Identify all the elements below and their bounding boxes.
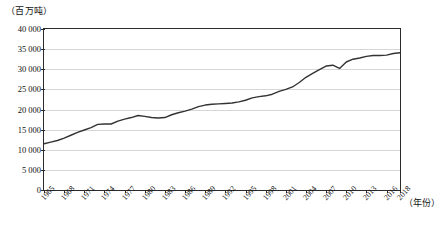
x-axis-title: （年份）	[404, 196, 440, 209]
consumption-line	[44, 53, 400, 144]
line-series-svg	[0, 0, 442, 238]
chart-page: （百万吨） 05 00010 00015 00020 00025 00030 0…	[0, 0, 442, 238]
